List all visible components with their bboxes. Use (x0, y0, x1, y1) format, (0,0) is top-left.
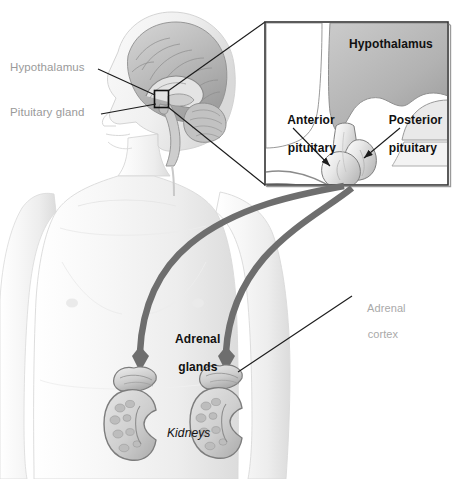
label-posterior-pituitary-line2: pituitary (389, 141, 437, 155)
label-posterior-pituitary-line1: Posterior (389, 113, 443, 127)
hpa-axis-figure: Hypothalamus Pituitary gland Hypothalamu… (0, 0, 462, 479)
label-pituitary-gland-head: Pituitary gland (10, 106, 84, 120)
label-adrenal-cortex-line1: Adrenal (367, 302, 406, 314)
label-anterior-pituitary: Anterior pituitary (274, 99, 336, 170)
label-anterior-pituitary-line2: pituitary (288, 141, 336, 155)
label-adrenal-cortex-line2: cortex (368, 328, 399, 340)
label-kidneys: Kidneys (167, 426, 210, 440)
label-adrenal-glands-line2: glands (178, 360, 217, 374)
label-adrenal-cortex: Adrenal cortex (355, 289, 406, 354)
label-hypothalamus-head: Hypothalamus (10, 61, 85, 75)
label-anterior-pituitary-line1: Anterior (287, 113, 334, 127)
label-posterior-pituitary: Posterior pituitary (375, 99, 442, 170)
label-adrenal-glands: Adrenal glands (155, 318, 227, 389)
label-hypothalamus-inset: Hypothalamus (349, 37, 433, 51)
label-adrenal-glands-line1: Adrenal (175, 332, 220, 346)
